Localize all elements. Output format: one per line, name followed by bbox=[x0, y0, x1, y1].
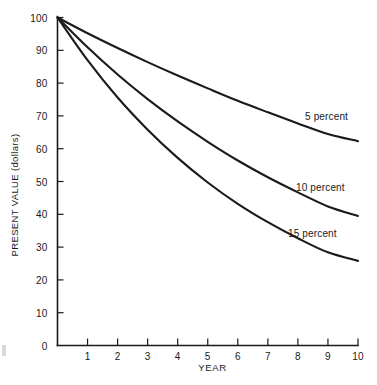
y-axis-title: PRESENT VALUE (dollars) bbox=[9, 134, 20, 257]
data-series-group bbox=[58, 18, 359, 261]
y-tick-label: 30 bbox=[0, 242, 48, 253]
x-tick-label: 6 bbox=[235, 351, 241, 362]
x-axis-title: YEAR bbox=[0, 362, 377, 373]
series-label-5-percent: 5 percent bbox=[305, 111, 348, 122]
x-tick-label: 7 bbox=[265, 351, 271, 362]
x-tick-label: 10 bbox=[352, 351, 364, 362]
x-tick-label: 2 bbox=[115, 351, 121, 362]
x-tick-label: 1 bbox=[85, 351, 91, 362]
y-tick-label: 40 bbox=[0, 209, 48, 220]
y-tick-label: 10 bbox=[0, 307, 48, 318]
y-tick-label: 100 bbox=[0, 12, 48, 23]
y-tick-label: 20 bbox=[0, 274, 48, 285]
present-value-line-chart: 0102030405060708090100 12345678910 PRESE… bbox=[0, 0, 377, 385]
axes-group bbox=[58, 17, 359, 346]
series-label-15-percent: 15 percent bbox=[288, 228, 337, 239]
y-tick-label: 60 bbox=[0, 143, 48, 154]
x-tick-label: 5 bbox=[205, 351, 211, 362]
series-label-10-percent: 10 percent bbox=[296, 182, 345, 193]
x-tick-label: 9 bbox=[325, 351, 331, 362]
y-tick-label: 70 bbox=[0, 110, 48, 121]
y-tick-label: 0 bbox=[0, 340, 48, 351]
page-edge-artifact bbox=[2, 345, 6, 356]
x-tick-label: 8 bbox=[295, 351, 301, 362]
y-tick-label: 80 bbox=[0, 78, 48, 89]
y-tick-label: 90 bbox=[0, 45, 48, 56]
y-tick-label: 50 bbox=[0, 176, 48, 187]
x-tick-label: 3 bbox=[145, 351, 151, 362]
x-tick-label: 4 bbox=[175, 351, 181, 362]
series-curve-15-percent bbox=[58, 18, 359, 261]
